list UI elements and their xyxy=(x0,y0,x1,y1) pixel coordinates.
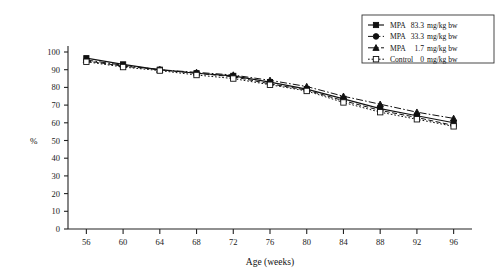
chart-series xyxy=(84,59,457,129)
x-tick-label: 92 xyxy=(413,237,422,247)
chart-svg: 0102030405060708090100 56606468727680848… xyxy=(0,0,502,275)
y-tick-label: 80 xyxy=(52,82,61,92)
legend-dose-value: 33.3 xyxy=(411,32,424,41)
x-tick-label: 68 xyxy=(192,237,201,247)
y-tick-label: 0 xyxy=(56,224,60,234)
x-tick-label: 56 xyxy=(82,237,91,247)
series-line xyxy=(86,62,453,127)
y-tick-label: 90 xyxy=(52,65,61,75)
legend-dose-value: 83.3 xyxy=(411,21,424,30)
chart-series xyxy=(84,58,457,128)
x-tick-label: 60 xyxy=(119,237,128,247)
data-point-marker xyxy=(373,22,378,27)
legend-dose-unit: mg/kg bw xyxy=(427,55,458,64)
x-tick-label: 80 xyxy=(302,237,311,247)
data-point-marker xyxy=(120,64,125,69)
data-point-marker xyxy=(414,109,420,115)
legend-dose-value: 0 xyxy=(420,55,424,64)
data-point-marker xyxy=(377,109,382,114)
y-tick-label: 20 xyxy=(52,189,61,199)
y-tick-label: 70 xyxy=(52,100,61,110)
y-axis-tick-labels: 0102030405060708090100 xyxy=(47,47,60,234)
data-point-marker xyxy=(373,57,378,62)
x-tick-label: 76 xyxy=(266,237,275,247)
data-point-marker xyxy=(157,68,162,73)
y-tick-label: 100 xyxy=(47,47,60,57)
chart-figure: 0102030405060708090100 56606468727680848… xyxy=(0,0,502,275)
data-point-marker xyxy=(341,100,346,105)
chart-legend: MPA83.3mg/kg bwMPA33.3mg/kg bwMPA1.7mg/k… xyxy=(362,15,494,64)
data-point-marker xyxy=(373,34,379,40)
legend-dose-value: 1.7 xyxy=(415,44,425,53)
x-tick-label: 96 xyxy=(449,237,458,247)
y-tick-label: 40 xyxy=(52,153,61,163)
data-point-marker xyxy=(231,76,236,81)
legend-treatment-label: MPA xyxy=(390,44,406,53)
data-point-marker xyxy=(451,124,456,129)
data-point-marker xyxy=(414,117,419,122)
data-point-marker xyxy=(84,59,89,64)
legend-treatment-label: Control xyxy=(390,55,413,64)
chart-series-group xyxy=(83,56,456,129)
legend-treatment-label: MPA xyxy=(390,21,406,30)
data-point-marker xyxy=(194,72,199,77)
x-axis-tick-labels: 5660646872768084889296 xyxy=(82,237,458,247)
x-tick-label: 72 xyxy=(229,237,238,247)
y-axis-title: % xyxy=(30,136,38,146)
y-tick-label: 50 xyxy=(52,136,61,146)
y-tick-label: 10 xyxy=(52,206,61,216)
x-tick-label: 88 xyxy=(376,237,385,247)
x-tick-label: 84 xyxy=(339,237,348,247)
data-point-marker xyxy=(304,88,309,93)
chart-series xyxy=(84,56,456,126)
x-axis-title: Age (weeks) xyxy=(246,257,294,268)
legend-dose-unit: mg/kg bw xyxy=(427,21,458,30)
data-point-marker xyxy=(267,82,272,87)
axis-ticks xyxy=(64,52,454,234)
legend-dose-unit: mg/kg bw xyxy=(427,32,458,41)
y-tick-label: 60 xyxy=(52,118,61,128)
legend-treatment-label: MPA xyxy=(390,32,406,41)
y-tick-label: 30 xyxy=(52,171,61,181)
legend-dose-unit: mg/kg bw xyxy=(427,44,458,53)
x-tick-label: 64 xyxy=(156,237,165,247)
